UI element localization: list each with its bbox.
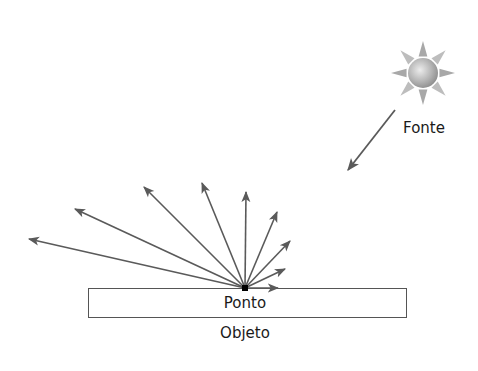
sun-ray-icon [432, 50, 446, 64]
object-label: Objeto [220, 324, 270, 342]
reflected-ray-arrow [75, 209, 245, 288]
reflected-ray-arrow [245, 212, 277, 288]
sun-icon [391, 41, 455, 105]
reflected-ray-arrow [202, 183, 245, 288]
sun-ray-icon [419, 41, 428, 57]
reflected-ray-arrow [245, 241, 290, 288]
point-label: Ponto [224, 294, 266, 312]
sun-ray-icon [400, 50, 414, 64]
source-label: Fonte [403, 119, 445, 137]
reflected-rays [29, 183, 290, 288]
reflection-point-marker [242, 285, 248, 291]
sun-ray-icon [391, 69, 407, 78]
reflection-diagram: Fonte Ponto Objeto [0, 0, 478, 371]
sun-ray-icon [432, 82, 446, 96]
incident-ray-arrow [348, 110, 395, 170]
sun-disc-icon [408, 58, 438, 88]
reflected-ray-arrow [29, 239, 245, 288]
reflected-ray-arrow [144, 187, 245, 288]
sun-ray-icon [439, 69, 455, 78]
sun-ray-icon [400, 82, 414, 96]
sun-ray-icon [419, 89, 428, 105]
reflected-ray-arrow [245, 192, 246, 288]
